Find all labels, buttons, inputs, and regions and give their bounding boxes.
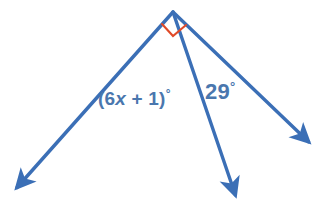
angle-label-29: 29° xyxy=(205,80,235,103)
angle-29-value: 29 xyxy=(205,79,230,104)
angle-label-expression: (6x + 1)° xyxy=(98,88,171,108)
expression-prefix: (6 xyxy=(98,88,115,109)
degree-symbol-icon: ° xyxy=(166,87,171,101)
expression-suffix: + 1) xyxy=(126,88,166,109)
angle-diagram: (6x + 1)° 29° xyxy=(0,0,332,215)
expression-variable: x xyxy=(115,88,126,109)
right-angle-mark xyxy=(162,24,186,36)
degree-symbol-icon: ° xyxy=(230,79,235,94)
